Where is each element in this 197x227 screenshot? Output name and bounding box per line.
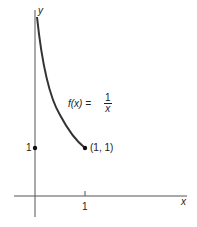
y-axis-label: y — [38, 6, 43, 16]
point-0-1 — [33, 146, 37, 150]
x-tick-label: 1 — [82, 202, 88, 212]
function-curve — [37, 17, 85, 148]
function-label-lhs: f(x) = — [68, 99, 91, 109]
function-fraction: 1 x — [104, 93, 112, 114]
point-label: (1, 1) — [90, 143, 113, 153]
point-1-1 — [83, 146, 87, 150]
fraction-denominator: x — [105, 104, 110, 114]
x-axis-label: x — [181, 197, 186, 207]
y-tick-label: 1 — [26, 143, 32, 153]
graph-canvas — [0, 0, 197, 227]
